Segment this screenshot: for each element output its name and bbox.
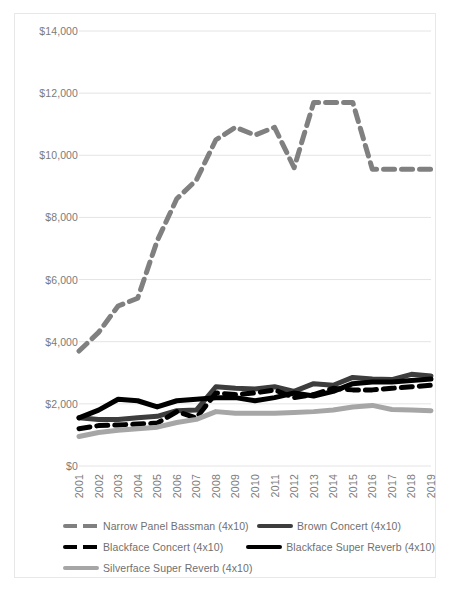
x-axis-tick-label: 2017: [386, 474, 398, 498]
legend-entry[interactable]: Brown Concert (4x10): [257, 520, 401, 532]
x-axis-tick-label: 2003: [112, 474, 124, 498]
x-axis-tick-label: 2015: [347, 474, 359, 498]
x-axis-tick-label: 2001: [73, 474, 85, 498]
x-axis-tick-label: 2010: [249, 474, 261, 498]
legend-row: Blackface Concert (4x10)Blackface Super …: [15, 536, 435, 557]
legend-entry[interactable]: Narrow Panel Bassman (4x10): [63, 520, 257, 532]
chart-legend: Narrow Panel Bassman (4x10)Brown Concert…: [15, 511, 435, 577]
legend-row: Narrow Panel Bassman (4x10)Brown Concert…: [15, 515, 435, 536]
plot-area: $0$2,000$4,000$6,000$8,000$10,000$12,000…: [15, 14, 435, 512]
x-axis-tick-label: 2018: [405, 474, 417, 498]
legend-label: Brown Concert (4x10): [297, 520, 401, 532]
legend-swatch-icon: [63, 566, 99, 570]
legend-entry[interactable]: Blackface Concert (4x10): [63, 541, 246, 553]
x-axis-tick-label: 2008: [210, 474, 222, 498]
legend-label: Narrow Panel Bassman (4x10): [103, 520, 249, 532]
x-axis-tick-label: 2014: [327, 474, 339, 498]
x-axis-tick-label: 2019: [425, 474, 437, 498]
x-axis-tick-label: 2009: [229, 474, 241, 498]
x-axis-tick-label: 2007: [190, 474, 202, 498]
legend-label: Silverface Super Reverb (4x10): [103, 562, 252, 574]
legend-entry[interactable]: Silverface Super Reverb (4x10): [63, 562, 252, 574]
x-axis-tick-label: 2011: [269, 474, 281, 497]
legend-swatch-icon: [63, 524, 99, 528]
x-axis-tick-label: 2002: [93, 474, 105, 498]
legend-label: Blackface Concert (4x10): [103, 541, 223, 553]
x-axis-tick-label: 2013: [308, 474, 320, 498]
x-axis-tick-label: 2004: [132, 474, 144, 498]
legend-entry[interactable]: Blackface Super Reverb (4x10): [246, 541, 435, 553]
legend-label: Blackface Super Reverb (4x10): [286, 541, 435, 553]
chart-container: $0$2,000$4,000$6,000$8,000$10,000$12,000…: [14, 13, 436, 578]
legend-row: Silverface Super Reverb (4x10): [15, 557, 435, 578]
legend-swatch-icon: [257, 524, 293, 528]
x-axis-tick-label: 2005: [151, 474, 163, 498]
x-axis-tick-labels: 2001200220032004200520062007200820092010…: [15, 14, 435, 512]
legend-swatch-icon: [63, 545, 99, 549]
x-axis-tick-label: 2006: [171, 474, 183, 498]
legend-swatch-icon: [246, 545, 282, 549]
x-axis-tick-label: 2012: [288, 474, 300, 498]
x-axis-tick-label: 2016: [366, 474, 378, 498]
